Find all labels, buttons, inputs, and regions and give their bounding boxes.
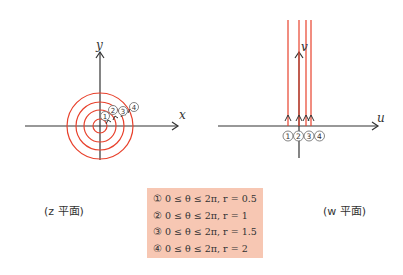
svg-text:2: 2 [296,132,301,141]
w-plane-axes [218,52,378,158]
w-v-axis-label: v [301,40,308,54]
z-y-axis-label: y [96,38,103,52]
w-u-axis-label: u [377,111,385,125]
svg-text:4: 4 [317,132,322,141]
w-plane-caption: (w 平面) [323,202,366,218]
z-plane-caption: (z 平面) [44,202,84,218]
legend-row-4: ④ 0 ≤ θ ≤ 2π, r = 2 [153,241,263,258]
legend-row-2: ② 0 ≤ θ ≤ 2π, r = 1 [153,208,263,225]
svg-text:2: 2 [111,107,115,115]
svg-text:3: 3 [307,132,312,141]
svg-text:1: 1 [103,113,107,121]
svg-text:4: 4 [132,104,137,112]
legend-row-3: ③ 0 ≤ θ ≤ 2π, r = 1.5 [153,224,263,241]
z-x-axis-label: x [179,108,186,122]
legend-box: ① 0 ≤ θ ≤ 2π, r = 0.5 ② 0 ≤ θ ≤ 2π, r = … [147,188,263,258]
w-plane-lines [288,20,311,126]
z-plane-axes [25,52,178,160]
legend-row-1: ① 0 ≤ θ ≤ 2π, r = 0.5 [153,191,263,208]
svg-text:3: 3 [121,108,125,116]
svg-text:1: 1 [286,132,291,141]
